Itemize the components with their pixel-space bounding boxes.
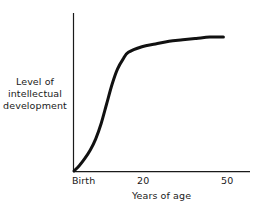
x-tick-label-20: 20 bbox=[137, 175, 149, 186]
x-axis-label: Years of age bbox=[73, 190, 250, 201]
chart-figure: Level of intellectual development Birth … bbox=[0, 0, 266, 209]
x-tick-label-birth: Birth bbox=[72, 175, 95, 186]
x-tick-label-50: 50 bbox=[221, 175, 233, 186]
growth-curve bbox=[74, 37, 223, 171]
